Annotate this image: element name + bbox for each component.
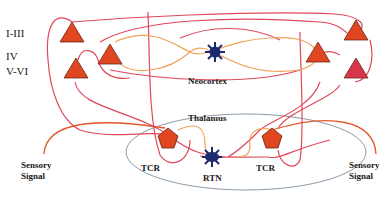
sensory-path-left [44, 123, 165, 154]
layer-label-v-vi: V-VI [6, 65, 28, 77]
sensory-signal-left: Sensory Signal [21, 160, 52, 182]
rtn-interneuron-icon [202, 147, 222, 167]
pyramidal-l1-3-left [60, 22, 84, 42]
sensory-left-line2: Signal [21, 171, 52, 182]
pyramidal-l5-6-right [344, 58, 368, 78]
sensory-right-line2: Signal [349, 171, 380, 182]
thalamus-label: Thalamus [188, 113, 227, 123]
diagram-svg [0, 0, 392, 197]
sensory-right-line1: Sensory [349, 160, 380, 171]
pyramidal-l1-3-right [344, 20, 368, 40]
neocortex-label: Neocortex [188, 76, 227, 86]
thalamocortical-diagram [0, 0, 392, 197]
tcr-cell-right [262, 128, 282, 148]
thalamus-region [126, 114, 366, 190]
rtn-label: RTN [203, 173, 222, 183]
sensory-path-right [272, 121, 376, 154]
tcr-label-right: TCR [256, 163, 275, 173]
pyramidal-l5-6-left [64, 58, 88, 78]
layer-label-i-iii: I-III [6, 27, 24, 39]
layer-label-iv: IV [6, 50, 18, 62]
neocortex-interneuron-icon [205, 42, 225, 62]
tcr-label-left: TCR [141, 163, 160, 173]
sensory-left-line1: Sensory [21, 160, 52, 171]
excitatory-paths [47, 12, 371, 166]
pyramidal-l4-left [98, 44, 122, 64]
sensory-signal-right: Sensory Signal [349, 160, 380, 182]
